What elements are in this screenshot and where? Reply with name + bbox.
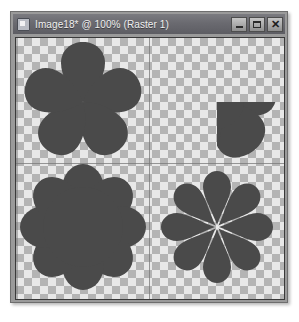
shape-flower-top-right[interactable]: [150, 38, 284, 164]
minimize-icon: [232, 18, 246, 31]
maximize-button[interactable]: [249, 17, 265, 32]
window-titlebar[interactable]: Image18* @ 100% (Raster 1) ✕: [13, 14, 285, 34]
shape-flower-bottom-left[interactable]: [16, 164, 150, 290]
minimize-button[interactable]: [231, 17, 247, 32]
close-button[interactable]: ✕: [267, 17, 283, 32]
shape-flower-top-left[interactable]: [16, 38, 150, 164]
close-icon: ✕: [268, 18, 282, 31]
image-canvas-frame[interactable]: [15, 37, 285, 300]
image-document-icon: [17, 18, 30, 31]
maximize-icon: [250, 18, 264, 31]
screenshot-root: Image18* @ 100% (Raster 1) ✕: [0, 0, 299, 322]
transparency-checkerboard[interactable]: [16, 38, 284, 299]
window-title: Image18* @ 100% (Raster 1): [35, 19, 231, 30]
image-window[interactable]: Image18* @ 100% (Raster 1) ✕: [10, 11, 288, 303]
shape-flower-bottom-right[interactable]: [150, 164, 284, 290]
window-controls: ✕: [231, 17, 283, 32]
